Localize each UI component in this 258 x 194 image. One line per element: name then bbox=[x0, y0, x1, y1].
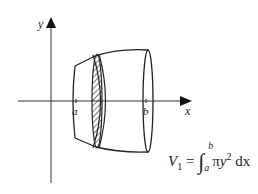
formula-power: 2 bbox=[226, 151, 231, 162]
formula-equals: = bbox=[186, 153, 194, 169]
formula-pi: π bbox=[212, 153, 220, 169]
upper-bound-label: b bbox=[143, 105, 149, 117]
upper-limit: b bbox=[208, 140, 213, 151]
volume-formula: V1 = ∫ b a πy2 dx bbox=[168, 146, 250, 172]
x-axis-label: x bbox=[184, 104, 191, 118]
formula-lhs: V bbox=[168, 153, 177, 169]
y-axis-label: y bbox=[37, 17, 44, 31]
y-axis-arrow-icon bbox=[46, 17, 56, 28]
y-axis bbox=[46, 17, 56, 183]
lower-limit: a bbox=[204, 162, 209, 173]
formula-differential: dx bbox=[235, 153, 250, 169]
formula-subscript: 1 bbox=[177, 161, 182, 172]
lower-bound-label: a bbox=[72, 105, 78, 117]
